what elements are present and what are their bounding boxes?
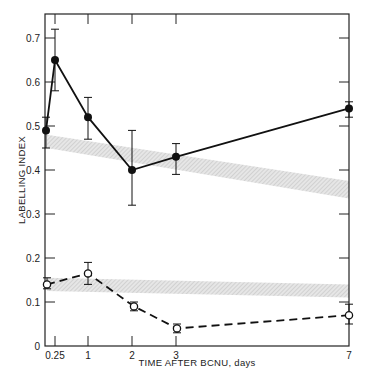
open-circle-marker (43, 281, 50, 288)
filled-circle-marker (172, 153, 180, 161)
x-axis-title: TIME AFTER BCNU, days (138, 357, 255, 368)
filled-circle-marker (42, 126, 50, 134)
y-tick-label: 0 (34, 341, 40, 352)
filled-circle-marker (128, 166, 136, 174)
y-tick-label: 0.5 (26, 121, 40, 132)
chart: 00.10.20.30.40.50.60.7 0.251237 TIME AFT… (0, 0, 367, 382)
y-tick-label: 0.7 (26, 33, 40, 44)
y-tick-label: 0.3 (26, 209, 40, 220)
filled-circle-marker (51, 56, 59, 64)
filled-circle-marker (345, 104, 353, 112)
y-axis: 00.10.20.30.40.50.60.7 (26, 33, 349, 352)
y-axis-title: LABELLING INDEX (16, 136, 27, 224)
open-circle-marker (130, 303, 137, 310)
open-circle-marker (173, 325, 180, 332)
open-circle-marker (345, 312, 352, 319)
y-tick-label: 0.6 (26, 77, 40, 88)
y-tick-label: 0.4 (26, 165, 40, 176)
open-circle-marker (84, 270, 91, 277)
control-bands (47, 135, 349, 298)
shaded-band (47, 278, 349, 298)
x-tick-label: 2 (129, 350, 135, 361)
x-tick-label: 1 (85, 350, 91, 361)
filled-circle-marker (84, 113, 92, 121)
y-tick-label: 0.1 (26, 297, 40, 308)
x-tick-label: 7 (346, 350, 352, 361)
shaded-band (47, 135, 349, 199)
series-open (43, 262, 353, 332)
x-tick-label: 0.25 (45, 350, 65, 361)
y-tick-label: 0.2 (26, 253, 40, 264)
